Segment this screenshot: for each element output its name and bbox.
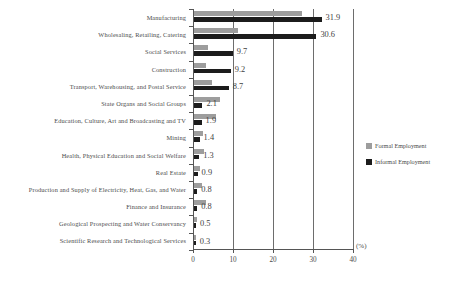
category-label: Manufacturing: [0, 9, 190, 26]
bar-row: 0.8: [193, 198, 353, 215]
legend-item: Formal Employment: [366, 142, 430, 149]
category-label: State Organs and Social Groups: [0, 95, 190, 112]
bar-value-label: 0.9: [202, 168, 212, 177]
bar-value-label: 2.1: [206, 99, 216, 108]
bar-row: 1.3: [193, 147, 353, 164]
bar-value-label: 0.3: [200, 237, 210, 246]
bar-value-label: 0.5: [200, 219, 210, 228]
bar-informal-employment: [194, 17, 322, 22]
bar-formal-employment: [194, 131, 203, 136]
bar-row: 30.6: [193, 26, 353, 43]
bar-value-label: 1.9: [206, 116, 216, 125]
bar-value-label: 30.6: [320, 30, 335, 39]
x-axis-unit-label: (%): [356, 242, 367, 250]
category-label: Construction: [0, 61, 190, 78]
bar-informal-employment: [194, 86, 229, 91]
x-axis-tick: [353, 249, 354, 253]
legend-swatch-icon: [366, 159, 372, 165]
bar-formal-employment: [194, 235, 196, 240]
category-label: Health, Physical Education and Social We…: [0, 147, 190, 164]
bar-formal-employment: [194, 217, 197, 222]
category-axis-labels: ManufacturingWholesaling, Retailing, Cat…: [0, 9, 190, 250]
bar-row: 0.5: [193, 215, 353, 232]
bar-row: 1.9: [193, 112, 353, 129]
bar-informal-employment: [194, 34, 316, 39]
bar-value-label: 1.4: [204, 133, 214, 142]
bar-row: 2.1: [193, 95, 353, 112]
gridline: [353, 9, 354, 249]
category-label: Social Services: [0, 43, 190, 60]
category-label: Production and Supply of Electricity, He…: [0, 181, 190, 198]
x-axis-tick-label: 30: [309, 256, 316, 264]
bar-value-label: 1.3: [203, 151, 213, 160]
bar-informal-employment: [194, 120, 202, 125]
bar-value-label: 8.7: [233, 82, 243, 91]
bar-informal-employment: [194, 206, 197, 211]
bar-informal-employment: [194, 69, 231, 74]
bar-row: 31.9: [193, 9, 353, 26]
bar-informal-employment: [194, 189, 197, 194]
legend-swatch-icon: [366, 143, 372, 149]
y-axis-tick: [189, 250, 193, 251]
bar-informal-employment: [194, 241, 196, 246]
bar-row: 9.2: [193, 61, 353, 78]
plot-area: (%) 01020304031.930.69.79.28.72.11.91.41…: [193, 9, 353, 249]
bar-row: 0.8: [193, 181, 353, 198]
bar-value-label: 9.7: [237, 47, 247, 56]
employment-distribution-chart: ManufacturingWholesaling, Retailing, Cat…: [0, 0, 456, 293]
bar-formal-employment: [194, 166, 200, 171]
bar-informal-employment: [194, 155, 199, 160]
bar-value-label: 0.8: [201, 202, 211, 211]
bar-row: 8.7: [193, 78, 353, 95]
legend-item: Informal Employment: [366, 158, 430, 165]
bar-formal-employment: [194, 80, 212, 85]
category-label: Transport, Warehousing, and Postal Servi…: [0, 78, 190, 95]
bar-value-label: 0.8: [201, 185, 211, 194]
bar-formal-employment: [194, 45, 208, 50]
legend-label: Formal Employment: [375, 142, 426, 149]
category-label: Finance and Insurance: [0, 198, 190, 215]
bar-row: 0.9: [193, 164, 353, 181]
bar-informal-employment: [194, 137, 200, 142]
category-label: Education, Culture, Art and Broadcasting…: [0, 112, 190, 129]
x-axis-tick-label: 10: [229, 256, 236, 264]
legend-label: Informal Employment: [375, 158, 430, 165]
bar-informal-employment: [194, 172, 198, 177]
bar-informal-employment: [194, 51, 233, 56]
bar-value-label: 9.2: [235, 65, 245, 74]
category-label: Scientific Research and Technological Se…: [0, 232, 190, 249]
bar-row: 0.3: [193, 233, 353, 250]
x-axis-tick-label: 20: [269, 256, 276, 264]
x-axis-tick-label: 40: [349, 256, 356, 264]
bar-row: 9.7: [193, 43, 353, 60]
chart-legend: Formal EmploymentInformal Employment: [366, 142, 430, 174]
bar-informal-employment: [194, 223, 196, 228]
bar-formal-employment: [194, 11, 302, 16]
bar-value-label: 31.9: [326, 13, 341, 22]
bar-informal-employment: [194, 103, 202, 108]
x-axis-tick-label: 0: [191, 256, 195, 264]
category-label: Mining: [0, 129, 190, 146]
category-label: Real Estate: [0, 164, 190, 181]
bar-row: 1.4: [193, 129, 353, 146]
category-label: Geological Prospecting and Water Conserv…: [0, 215, 190, 232]
category-label: Wholesaling, Retailing, Catering: [0, 26, 190, 43]
bar-formal-employment: [194, 28, 238, 33]
bar-formal-employment: [194, 63, 206, 68]
